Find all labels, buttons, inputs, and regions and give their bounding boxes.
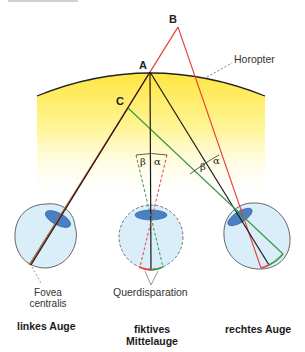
horopter-leader bbox=[207, 63, 232, 77]
querdisparation-leader bbox=[145, 271, 158, 285]
middle-eye-label-line1: fiktives bbox=[124, 323, 180, 335]
horopter-label: Horopter bbox=[234, 54, 275, 65]
middle-eye-label-line2: Mittelauge bbox=[124, 335, 180, 347]
fovea-label: Fovea centralis bbox=[28, 287, 68, 309]
fovea-label-line1: Fovea bbox=[28, 287, 68, 298]
fovea-leader bbox=[32, 267, 41, 283]
querdisparation-label: Querdisparation bbox=[113, 287, 188, 298]
middle-beta-label: β bbox=[140, 156, 146, 167]
right-beta-label: β bbox=[200, 161, 206, 172]
left-eye-label: linkes Auge bbox=[17, 320, 76, 332]
fovea-label-line2: centralis bbox=[28, 298, 68, 309]
right-alpha-label: α bbox=[213, 155, 220, 166]
left-eye bbox=[15, 204, 76, 268]
point-label-a: A bbox=[139, 59, 147, 71]
point-label-b: B bbox=[169, 13, 177, 25]
right-eye bbox=[224, 203, 290, 269]
right-eye-label: rechtes Auge bbox=[225, 323, 291, 335]
middle-alpha-label: α bbox=[154, 156, 161, 167]
point-label-c: C bbox=[116, 95, 124, 107]
middle-eye-label: fiktives Mittelauge bbox=[124, 323, 180, 347]
